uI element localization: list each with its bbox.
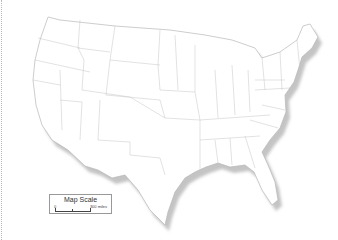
scale-bar [55,208,91,212]
scale-bar-midtick [72,209,73,211]
map-scale-legend: Map Scale 0 300 miles [49,194,112,214]
legend-title: Map Scale [50,196,111,203]
scale-distance-label: 300 miles [90,204,107,209]
